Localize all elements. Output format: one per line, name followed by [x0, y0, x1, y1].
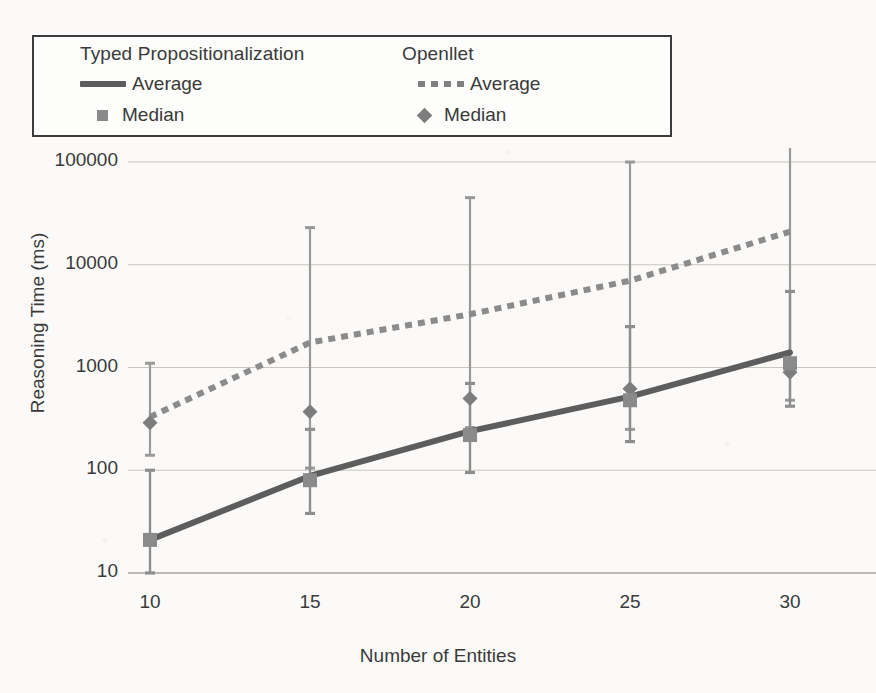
x-tick-label-30: 30 [750, 591, 830, 613]
y-tick-label-100000: 100000 [0, 149, 118, 171]
square-marker-icon [97, 110, 108, 121]
legend-item-openllet-median: Median [402, 104, 506, 126]
legend-column-openllet: Openllet Average Median [402, 37, 672, 135]
y-tick-label-10: 10 [0, 560, 118, 582]
legend-group-title: Typed Propositionalization [80, 43, 304, 65]
chart-legend: Typed Propositionalization Average Media… [32, 35, 672, 137]
reasoning-time-chart: 100000 10000 1000 100 10 10 15 20 25 30 … [0, 0, 876, 693]
legend-item-openllet-average: Average [402, 73, 540, 95]
legend-item-label: Median [122, 104, 184, 126]
y-tick-label-100: 100 [0, 457, 118, 479]
legend-group-title: Openllet [402, 43, 474, 65]
legend-item-label: Average [470, 73, 540, 95]
dashed-line-icon [418, 81, 464, 87]
diamond-marker-icon [417, 107, 433, 123]
x-tick-label-15: 15 [270, 591, 350, 613]
legend-item-label: Average [132, 73, 202, 95]
legend-item-label: Median [444, 104, 506, 126]
y-tick-label-1000: 1000 [0, 355, 118, 377]
x-tick-label-25: 25 [590, 591, 670, 613]
x-tick-label-20: 20 [430, 591, 510, 613]
legend-item-typed-average: Average [80, 73, 202, 95]
gridlines [128, 162, 876, 573]
x-axis-title: Number of Entities [0, 645, 876, 667]
x-tick-label-10: 10 [110, 591, 190, 613]
y-tick-label-10000: 10000 [0, 252, 118, 274]
y-axis-title: Reasoning Time (ms) [27, 193, 49, 453]
legend-column-typed-propositionalization: Typed Propositionalization Average Media… [80, 37, 430, 135]
legend-item-typed-median: Median [80, 104, 184, 126]
solid-line-icon [80, 81, 126, 87]
